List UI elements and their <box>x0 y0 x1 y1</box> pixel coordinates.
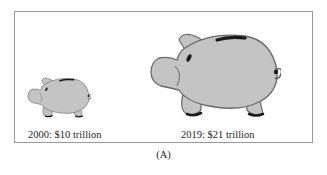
figure-caption: (A) <box>0 149 327 160</box>
label-2000: 2000: $10 trillion <box>28 129 102 140</box>
piggy-bank-icon-2019 <box>149 26 281 120</box>
piggy-bank-icon-2000 <box>27 74 91 119</box>
label-2019: 2019: $21 trillion <box>181 129 255 140</box>
